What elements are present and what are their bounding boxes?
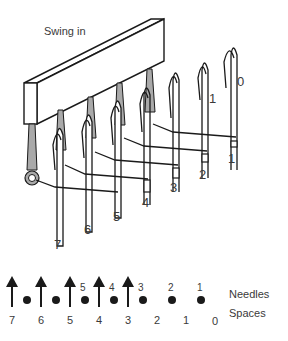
dot-label-3: 3	[138, 282, 144, 293]
space-label-7: 7	[9, 314, 15, 326]
space-label-3: 3	[125, 314, 131, 326]
space-label-5: 5	[67, 314, 73, 326]
spaces-label: Spaces	[229, 307, 266, 319]
needles-label: Needles	[229, 288, 270, 300]
butt-label-1: 1	[228, 151, 235, 166]
dot-icon	[139, 296, 147, 304]
dot-icon	[52, 296, 60, 304]
legend-dots	[23, 296, 205, 304]
knitting-needle-diagram: Swing in 0 1 1 2 3 4 5 6 7 5 4 3 2 1 7 6…	[0, 0, 288, 341]
dot-icon	[168, 296, 176, 304]
dot-label-5: 5	[80, 282, 86, 293]
dot-icon	[197, 296, 205, 304]
butt-label-5: 5	[113, 209, 120, 224]
needle-label-1-top: 1	[209, 91, 216, 106]
space-label-0: 0	[212, 315, 218, 327]
dot-label-1: 1	[197, 282, 203, 293]
butt-label-2: 2	[199, 167, 206, 182]
dot-icon	[81, 296, 89, 304]
swing-in-label: Swing in	[44, 25, 86, 37]
loop-ring	[25, 171, 39, 185]
butt-label-6: 6	[84, 222, 91, 237]
arrow-up-icon	[6, 276, 18, 307]
dot-icon	[23, 296, 31, 304]
butt-label-3: 3	[170, 180, 177, 195]
butt-label-4: 4	[142, 195, 149, 210]
arrow-up-icon	[35, 276, 47, 307]
space-label-4: 4	[96, 314, 102, 326]
space-label-6: 6	[38, 314, 44, 326]
arrow-up-icon	[122, 276, 134, 307]
dot-icon	[110, 296, 118, 304]
arrow-up-icon	[64, 276, 76, 307]
needle-label-0: 0	[237, 74, 244, 89]
space-label-1: 1	[183, 314, 189, 326]
butt-tabs	[144, 141, 237, 192]
butt-label-7: 7	[54, 237, 61, 252]
dot-label-2: 2	[168, 282, 174, 293]
space-label-2: 2	[154, 314, 160, 326]
dot-label-4: 4	[109, 282, 115, 293]
arrow-up-icon	[93, 276, 105, 307]
